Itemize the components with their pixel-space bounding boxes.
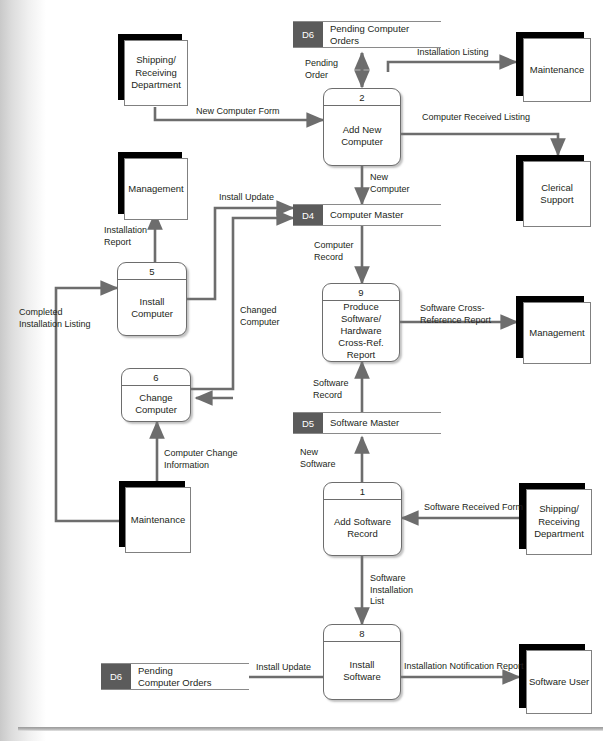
process-change-computer: 6 Change Computer [121, 368, 191, 422]
process-number: 1 [324, 483, 401, 500]
process-number: 6 [122, 369, 190, 386]
datastore-name: Pending Computer Orders [323, 22, 441, 47]
process-label: Change Computer [122, 386, 190, 421]
process-install-computer: 5 Install Computer [117, 262, 187, 336]
entity-clerical-support: Clerical Support [523, 161, 591, 227]
flow-line-install-update-top [185, 208, 293, 299]
datastore-d6-pending-computer-orders-bottom: D6 Pending Computer Orders [101, 663, 249, 690]
flow-label-new-computer-form: New Computer Form [196, 106, 280, 118]
flow-label-installation-notification-report: Installation Notification Report [404, 661, 524, 673]
diagram-canvas: Shipping/ Receiving Department Maintenan… [0, 0, 603, 741]
flow-label-completed-installation-listing: Completed Installation Listing [19, 307, 91, 330]
entity-shipping-receiving-department-top: Shipping/ Receiving Department [124, 40, 188, 106]
datastore-id: D4 [293, 205, 323, 225]
flow-label-pending-order: Pending Order [305, 58, 338, 81]
flow-label-computer-change-information: Computer Change Information [164, 448, 238, 471]
entity-shipping-receiving-department-bottom: Shipping/ Receiving Department [526, 489, 592, 555]
flow-line-changed-computer [191, 218, 293, 389]
datastore-id: D6 [101, 664, 131, 689]
flow-label-installation-report: Installation Report [104, 225, 147, 248]
flow-label-changed-computer: Changed Computer [240, 305, 280, 328]
flow-label-software-cross-reference-report: Software Cross- Reference Report [420, 303, 491, 326]
datastore-d6-pending-computer-orders-top: D6 Pending Computer Orders [293, 21, 441, 48]
flow-label-computer-record: Computer Record [314, 240, 354, 263]
datastore-id: D5 [293, 413, 323, 433]
flow-line-installation-listing [388, 62, 516, 72]
flow-label-software-record: Software Record [313, 378, 349, 401]
entity-management-right: Management [523, 302, 591, 364]
datastore-name: Software Master [323, 413, 441, 433]
process-number: 8 [324, 625, 400, 642]
datastore-name: Computer Master [323, 205, 441, 225]
flow-line-computer-received-listing [401, 134, 558, 155]
flow-label-install-update-bottom: Install Update [256, 662, 311, 674]
flow-label-computer-received-listing: Computer Received Listing [422, 112, 530, 124]
process-label: Add Software Record [324, 500, 401, 555]
flow-label-software-received-form: Software Received Form [424, 502, 523, 514]
process-install-software: 8 Install Software [323, 624, 401, 700]
datastore-d4-computer-master: D4 Computer Master [293, 204, 441, 226]
flow-label-install-update-top: Install Update [219, 192, 274, 204]
process-number: 2 [324, 89, 400, 106]
process-label: Produce Software/ Hardware Cross-Ref. Re… [323, 301, 399, 361]
flow-label-installation-listing: Installation Listing [417, 47, 489, 59]
process-add-software-record: 1 Add Software Record [323, 482, 402, 556]
process-produce-software-hardware-cross-ref-report: 9 Produce Software/ Hardware Cross-Ref. … [322, 283, 400, 362]
process-number: 5 [118, 263, 186, 280]
entity-maintenance-right: Maintenance [523, 38, 591, 102]
entity-management-left: Management [124, 158, 188, 220]
datastore-d5-software-master: D5 Software Master [293, 412, 441, 434]
datastore-id: D6 [293, 22, 323, 47]
flow-label-new-software: New Software [300, 447, 336, 470]
process-add-new-computer: 2 Add New Computer [323, 88, 401, 166]
process-label: Install Software [324, 642, 400, 699]
flow-label-new-computer: New Computer [370, 172, 410, 195]
entity-maintenance-left: Maintenance [125, 487, 191, 553]
process-number: 9 [323, 284, 399, 301]
datastore-name: Pending Computer Orders [131, 664, 249, 689]
process-label: Install Computer [118, 280, 186, 335]
flow-label-software-installation-list: Software Installation List [370, 573, 413, 608]
process-label: Add New Computer [324, 106, 400, 165]
entity-software-user: Software User [526, 650, 592, 714]
